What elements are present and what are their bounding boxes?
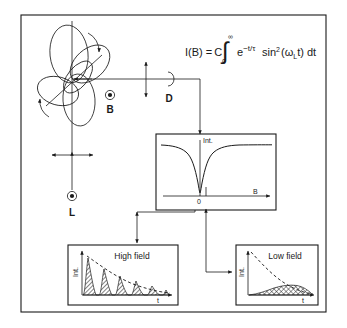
equation-sin-term: sin	[262, 46, 276, 58]
equation-sin-exponent: 2	[276, 46, 280, 53]
magnetic-field-group	[105, 90, 114, 99]
high-field-xlabel: t	[157, 297, 159, 304]
main-plot-curve	[161, 145, 272, 193]
radiation-pattern-rosette	[34, 21, 117, 152]
rosette-dipole-axis	[46, 55, 102, 106]
high-field-beats	[83, 258, 169, 295]
svg-text:I(B)=C: I(B)=C	[185, 46, 222, 58]
low-field-ylabel: Int.	[238, 267, 245, 277]
high-field-panel: Int. t High field	[68, 245, 178, 305]
equation-paren-close: )	[300, 46, 304, 58]
detector-label: D	[165, 93, 172, 104]
equation-group: I(B)=C ∫ ∞ 0 e−t/τ sin2(ωLt)dt	[185, 33, 316, 65]
source-label: L	[69, 207, 75, 218]
field-dot-center	[108, 93, 112, 97]
high-field-ylabel: Int.	[72, 267, 79, 277]
field-label: B	[106, 104, 113, 115]
svg-text:sin2(ωLt)dt: sin2(ωLt)dt	[262, 46, 316, 60]
light-source-group	[52, 152, 93, 201]
source-dot-center	[70, 194, 74, 198]
low-field-xlabel: t	[302, 297, 304, 304]
equation-limit-lower: 0	[222, 58, 226, 65]
main-plot-frame	[156, 134, 276, 210]
rosette-lobe-upper-left	[47, 23, 91, 85]
equation-differential: dt	[307, 46, 316, 58]
hanle-curve-plot: Int. 0 B	[156, 134, 276, 210]
equation-exp-power: −t/τ	[243, 44, 256, 53]
low-field-title: Low field	[268, 251, 302, 261]
hanle-effect-diagram: L B D I(B)=C ∫ ∞ 0	[0, 0, 347, 328]
equation-lhs: I(B)	[185, 46, 203, 58]
connector-low-field-path	[206, 222, 232, 272]
main-plot-ylabel: Int.	[203, 137, 213, 144]
rotation-arrow-top	[88, 33, 99, 52]
panel-connectors	[137, 209, 232, 272]
figure-border	[21, 15, 326, 312]
low-field-panel: Int. t Low field	[236, 245, 318, 305]
equation-constant: C	[214, 46, 222, 58]
equation-equals: =	[206, 46, 212, 58]
equation-limit-upper: ∞	[228, 33, 233, 40]
low-field-hump	[249, 285, 312, 295]
high-field-envelope	[87, 256, 170, 293]
main-plot-xlabel: B	[253, 188, 258, 195]
high-field-title: High field	[114, 251, 150, 261]
main-plot-origin-label: 0	[197, 198, 201, 205]
detection-beam-group	[72, 62, 200, 134]
rosette-lobe-lower-left	[34, 72, 82, 110]
svg-text:e−t/τ: e−t/τ	[237, 44, 256, 58]
